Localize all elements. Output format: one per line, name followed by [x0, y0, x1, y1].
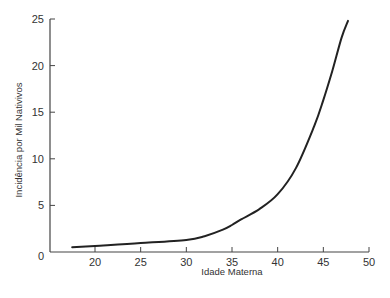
y-tick-label: 25 — [32, 13, 44, 25]
incidence-curve — [72, 21, 348, 247]
y-tick-label: 10 — [32, 153, 44, 165]
x-tick-label: 30 — [180, 256, 192, 268]
x-tick-label: 45 — [317, 256, 329, 268]
x-axis-label: Idade Materna — [201, 266, 263, 277]
x-tick-label: 50 — [363, 256, 375, 268]
y-tick-label: 0 — [38, 250, 44, 262]
y-tick-label: 20 — [32, 60, 44, 72]
axes: 051015202520253035404550 — [32, 13, 375, 268]
y-tick-label: 15 — [32, 106, 44, 118]
line-chart: 051015202520253035404550 Idade Materna I… — [0, 0, 390, 298]
x-tick-label: 40 — [272, 256, 284, 268]
data-series — [72, 21, 348, 247]
x-tick-label: 20 — [89, 256, 101, 268]
y-axis-label: Incidência por Mil Nativivos — [13, 82, 24, 197]
x-tick-label: 25 — [135, 256, 147, 268]
y-tick-label: 5 — [38, 199, 44, 211]
